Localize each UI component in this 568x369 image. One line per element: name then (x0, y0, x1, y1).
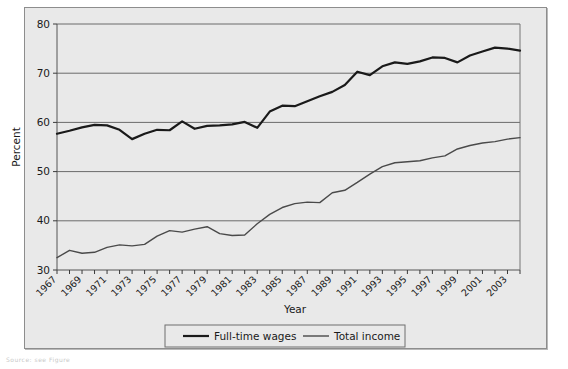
x-tick-label: 1977 (159, 274, 184, 299)
y-tick-label: 50 (37, 165, 50, 177)
x-tick-label: 1997 (409, 274, 434, 299)
x-tick-label: 2001 (459, 274, 484, 299)
y-tick-label: 70 (37, 67, 50, 79)
figure-container: 304050607080 196719691971197319751977197… (0, 0, 568, 369)
x-tick-label: 2003 (484, 274, 509, 299)
x-tick-label: 1987 (284, 274, 309, 299)
x-tick-label: 1981 (209, 274, 234, 299)
x-tick-label: 1999 (434, 274, 459, 299)
x-axis-tick-labels: 1967196919711973197519771979198119831985… (34, 274, 509, 299)
x-tick-label: 1989 (309, 274, 334, 299)
x-tick-label: 1983 (234, 274, 259, 299)
y-tick-label: 30 (37, 264, 50, 276)
y-tick-label: 60 (37, 116, 50, 128)
x-axis-title: Year (283, 303, 307, 315)
legend-label-total-income: Total income (333, 330, 400, 342)
x-tick-label: 1973 (109, 274, 134, 299)
y-tick-label: 80 (37, 18, 50, 30)
x-tick-label: 1993 (359, 274, 384, 299)
y-tick-label: 40 (37, 214, 50, 226)
x-tick-label: 1969 (59, 274, 84, 299)
x-tick-label: 1979 (184, 274, 209, 299)
line-chart: 304050607080 196719691971197319751977197… (0, 0, 568, 369)
chart-legend: Full-time wagesTotal income (165, 325, 405, 347)
x-tick-label: 1991 (334, 274, 359, 299)
x-tick-label: 1995 (384, 274, 409, 299)
x-tick-label: 1967 (34, 274, 59, 299)
legend-label-full-time-wages: Full-time wages (214, 330, 296, 342)
y-axis-ticks (53, 24, 57, 270)
figure-caption: Source: see Figure (6, 356, 70, 363)
y-axis-title: Percent (10, 127, 22, 167)
x-tick-label: 1985 (259, 274, 284, 299)
x-tick-label: 1971 (84, 274, 109, 299)
y-axis-tick-labels: 304050607080 (37, 18, 50, 276)
x-tick-label: 1975 (134, 274, 159, 299)
